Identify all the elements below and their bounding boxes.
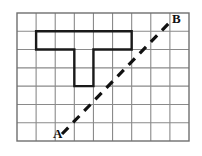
figure-container: A B [0, 0, 202, 156]
point-label-b: B [172, 12, 181, 25]
point-label-a: A [53, 127, 62, 140]
